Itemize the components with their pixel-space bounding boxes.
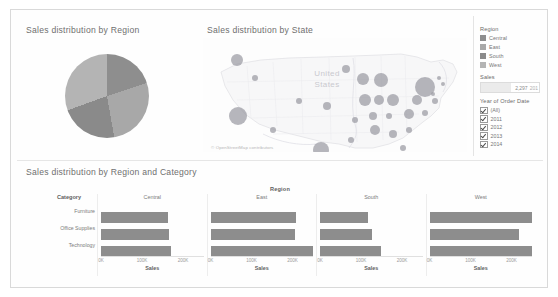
- axis-title-sales: Sales: [317, 265, 426, 271]
- bar-furniture: [430, 212, 533, 223]
- year-checkbox-all[interactable]: (All): [480, 106, 543, 115]
- region-legend: Region Central East South West: [480, 26, 543, 69]
- region-column-south: South 0K 100K 200K Sales: [316, 194, 426, 276]
- legend-item-label: Central: [489, 35, 507, 41]
- legend-item-west[interactable]: West: [480, 61, 543, 69]
- x-axis-west: 0K 100K 200K: [430, 256, 533, 265]
- map-panel-title: Sales distribution by State: [207, 25, 313, 35]
- slider-values: 2,297 201: [515, 83, 538, 92]
- bars-central: [101, 203, 204, 255]
- legend-item-label: East: [489, 44, 500, 50]
- checkbox-icon[interactable]: [480, 115, 488, 123]
- year-checkbox-label: 2014: [491, 141, 503, 147]
- year-checkbox-2014[interactable]: 2014: [480, 140, 543, 149]
- axis-tick: 100K: [465, 258, 476, 263]
- map-attribution: © OpenStreetMap contributors: [211, 145, 273, 150]
- bar-panel-title: Sales distribution by Region and Categor…: [26, 167, 197, 177]
- category-labels: Furniture Office Supplies Technology: [41, 194, 97, 276]
- axis-tick: 0K: [208, 258, 214, 263]
- us-map[interactable]: UnitedStates © OpenStreetMap contributor…: [203, 38, 467, 152]
- column-header-label: South: [317, 194, 426, 200]
- year-filter: Year of Order Date (All) 2011 2012 2013 …: [480, 98, 543, 149]
- axis-title-sales: Sales: [98, 265, 207, 271]
- bar-office-supplies: [101, 229, 169, 240]
- year-checkbox-2011[interactable]: 2011: [480, 115, 543, 124]
- column-header-label: Central: [98, 194, 207, 200]
- pie-panel-title: Sales distribution by Region: [26, 25, 140, 35]
- country-label: UnitedStates: [295, 68, 359, 90]
- legend-item-label: South: [489, 53, 504, 59]
- checkbox-icon[interactable]: [480, 132, 488, 140]
- bar-furniture: [211, 212, 296, 223]
- axis-tick: 200K: [397, 258, 408, 263]
- x-axis-central: 0K 100K 200K: [101, 256, 204, 265]
- axis-title-sales: Sales: [208, 265, 317, 271]
- column-header-label: East: [208, 194, 317, 200]
- row-label-furniture: Furniture: [74, 208, 95, 214]
- year-checkbox-2012[interactable]: 2012: [480, 123, 543, 132]
- axis-tick: 100K: [356, 258, 367, 263]
- sales-range-slider[interactable]: 2,297 201: [480, 82, 540, 93]
- column-header-label: West: [427, 194, 536, 200]
- row-label-office-supplies: Office Supplies: [60, 225, 95, 231]
- x-axis-east: 0K 100K 200K: [211, 256, 314, 265]
- bars-west: [430, 203, 533, 255]
- sales-filter-title: Sales: [480, 74, 543, 80]
- axis-tick: 100K: [137, 258, 148, 263]
- slider-track-fill: [481, 83, 511, 92]
- x-axis-south: 0K 100K 200K: [320, 256, 423, 265]
- bar-chart-panel: Sales distribution by Region and Categor…: [17, 160, 543, 283]
- checkbox-icon[interactable]: [480, 124, 488, 132]
- dashboard-container: Sales distribution by Region Sales distr…: [10, 9, 548, 288]
- bar-furniture: [101, 212, 168, 223]
- year-checkbox-label: 2012: [491, 124, 503, 130]
- pie-chart[interactable]: [65, 54, 149, 138]
- legend-item-east[interactable]: East: [480, 43, 543, 51]
- pie-chart-panel: Sales distribution by Region: [17, 16, 197, 156]
- legend-swatch: [480, 62, 486, 68]
- region-column-east: East 0K 100K 200K Sales: [207, 194, 317, 276]
- bar-office-supplies: [211, 229, 295, 240]
- region-column-header: Region: [17, 186, 543, 192]
- slider-low-value: 2,297: [515, 85, 528, 91]
- region-column-central: Central 0K 100K 200K Sales: [97, 194, 207, 276]
- bar-chart-grid: Furniture Office Supplies Technology Cen…: [41, 194, 535, 276]
- slider-high-value: 201: [530, 85, 538, 91]
- year-checkbox-label: (All): [491, 107, 500, 113]
- axis-tick: 200K: [178, 258, 189, 263]
- map-graphics: [203, 38, 467, 152]
- axis-tick: 200K: [506, 258, 517, 263]
- legend-item-central[interactable]: Central: [480, 34, 543, 42]
- bars-east: [211, 203, 314, 255]
- region-legend-title: Region: [480, 26, 543, 32]
- legend-item-label: West: [489, 62, 502, 68]
- axis-tick: 0K: [317, 258, 323, 263]
- year-checkbox-2013[interactable]: 2013: [480, 132, 543, 141]
- axis-tick: 0K: [427, 258, 433, 263]
- pie-slices[interactable]: [65, 54, 149, 138]
- legend-swatch: [480, 35, 486, 41]
- map-panel: Sales distribution by State: [199, 16, 471, 156]
- checkbox-icon[interactable]: [480, 141, 488, 149]
- bar-office-supplies: [320, 229, 372, 240]
- legend-filter-panel: Region Central East South West Sales: [473, 16, 543, 156]
- region-column-west: West 0K 100K 200K Sales: [426, 194, 536, 276]
- sales-range-filter: Sales 2,297 201: [480, 74, 543, 93]
- checkbox-icon[interactable]: [480, 107, 488, 115]
- axis-tick: 200K: [287, 258, 298, 263]
- bar-furniture: [320, 212, 368, 223]
- legend-item-south[interactable]: South: [480, 52, 543, 60]
- year-checkbox-label: 2011: [491, 116, 502, 122]
- bar-office-supplies: [430, 229, 520, 240]
- row-label-technology: Technology: [69, 242, 95, 248]
- bars-south: [320, 203, 423, 255]
- axis-title-sales: Sales: [427, 265, 536, 271]
- year-filter-title: Year of Order Date: [480, 98, 543, 104]
- year-checkbox-label: 2013: [491, 133, 503, 139]
- axis-tick: 0K: [98, 258, 104, 263]
- legend-swatch: [480, 53, 486, 59]
- legend-swatch: [480, 44, 486, 50]
- axis-tick: 100K: [246, 258, 257, 263]
